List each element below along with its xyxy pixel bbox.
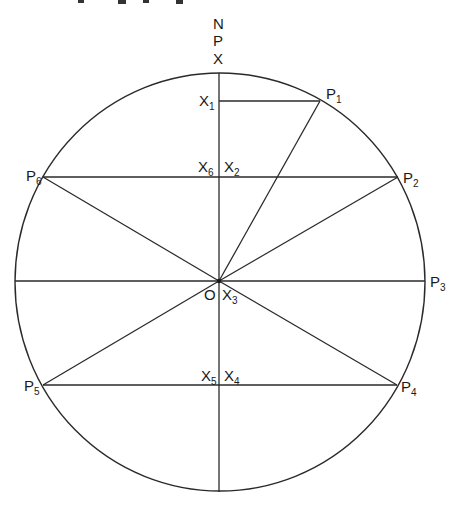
- label-north: N: [213, 15, 224, 32]
- label-p5: P5: [24, 377, 40, 397]
- label-origin: O: [204, 286, 216, 303]
- label-p3: P3: [430, 273, 446, 293]
- radius-o-p4: [219, 281, 397, 385]
- label-p4: P4: [401, 378, 417, 398]
- label-p1: P1: [326, 85, 342, 105]
- clipped-heading-fragment: [78, 0, 183, 4]
- origin-point: [217, 279, 221, 283]
- label-p6: P6: [26, 167, 42, 187]
- label-x1: X1: [199, 92, 215, 112]
- label-p2: P2: [403, 169, 419, 189]
- label-x5: X5: [201, 367, 217, 387]
- label-x4: X4: [224, 367, 240, 387]
- radius-o-p6: [43, 177, 219, 281]
- label-p-top: P: [213, 32, 223, 49]
- radius-o-p5: [43, 281, 219, 385]
- label-x2: X2: [224, 158, 240, 178]
- radius-o-p1: [219, 101, 320, 281]
- radius-o-p2: [219, 177, 398, 281]
- label-x3: X3: [222, 286, 238, 306]
- label-x-top: X: [213, 50, 223, 67]
- circle-projection-diagram: N P X P1 P2 P3 P4 P5 P6 X1 X2 X6 O X3 X5…: [0, 0, 456, 506]
- label-x6: X6: [198, 158, 214, 178]
